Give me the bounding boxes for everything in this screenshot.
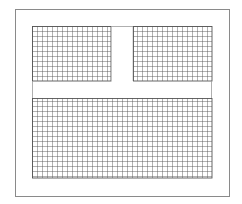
grid-diagram: [0, 0, 242, 204]
grid-block-upper-left: [32, 26, 111, 81]
grid-block-bottom: [32, 98, 212, 178]
grid-block-upper-right: [133, 26, 212, 81]
